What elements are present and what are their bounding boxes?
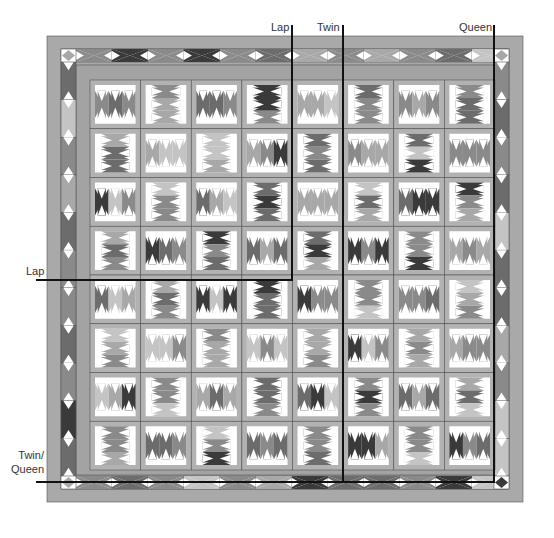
quilt-block bbox=[444, 275, 495, 324]
quilt-block bbox=[141, 178, 192, 227]
quilt-block bbox=[343, 275, 394, 324]
quilt-block bbox=[394, 129, 445, 178]
quilt-block bbox=[343, 421, 394, 470]
quilt-block bbox=[141, 421, 192, 470]
quilt-block bbox=[394, 178, 445, 227]
quilt-block bbox=[90, 178, 141, 227]
quilt-block bbox=[394, 275, 445, 324]
quilt-block bbox=[191, 129, 242, 178]
quilt-block bbox=[293, 324, 344, 373]
quilt-block bbox=[343, 80, 394, 129]
quilt-block bbox=[343, 373, 394, 422]
quilt-block bbox=[141, 226, 192, 275]
quilt-block bbox=[394, 80, 445, 129]
quilt-block bbox=[141, 324, 192, 373]
quilt-block bbox=[141, 275, 192, 324]
quilt-block bbox=[242, 80, 293, 129]
quilt-block bbox=[191, 178, 242, 227]
quilt-layout bbox=[0, 0, 554, 538]
quilt-block bbox=[444, 324, 495, 373]
quilt-block bbox=[293, 275, 344, 324]
quilt-block bbox=[242, 421, 293, 470]
quilt-block bbox=[444, 421, 495, 470]
quilt-block bbox=[343, 324, 394, 373]
quilt-block bbox=[394, 324, 445, 373]
label-lap-top: Lap bbox=[271, 21, 289, 33]
quilt-block bbox=[242, 129, 293, 178]
label-twin-top: Twin bbox=[317, 21, 340, 33]
quilt-block bbox=[242, 324, 293, 373]
quilt-block bbox=[90, 129, 141, 178]
quilt-block bbox=[242, 226, 293, 275]
label-twin-queen-left-2: Queen bbox=[8, 463, 44, 475]
quilt-block bbox=[191, 421, 242, 470]
quilt-block bbox=[242, 178, 293, 227]
quilt-block bbox=[444, 129, 495, 178]
quilt-block bbox=[293, 421, 344, 470]
quilt-block bbox=[343, 129, 394, 178]
quilt-block bbox=[394, 226, 445, 275]
quilt-block bbox=[191, 80, 242, 129]
quilt-block bbox=[293, 373, 344, 422]
quilt-block bbox=[191, 226, 242, 275]
quilt-block bbox=[90, 275, 141, 324]
quilt-block bbox=[191, 373, 242, 422]
quilt-block bbox=[343, 226, 394, 275]
label-twin-queen-left-1: Twin/ bbox=[14, 449, 44, 461]
quilt-block bbox=[141, 80, 192, 129]
quilt-block bbox=[444, 80, 495, 129]
cut-line-twin-vertical bbox=[342, 25, 344, 482]
cut-line-lap-vertical bbox=[291, 25, 293, 281]
quilt-block bbox=[242, 373, 293, 422]
cut-line-queen-vertical bbox=[493, 25, 495, 482]
quilt-block bbox=[444, 226, 495, 275]
quilt-block bbox=[141, 373, 192, 422]
quilt-block bbox=[90, 421, 141, 470]
quilt-block bbox=[293, 129, 344, 178]
quilt-block bbox=[444, 373, 495, 422]
quilt-block bbox=[293, 178, 344, 227]
quilt-block bbox=[191, 324, 242, 373]
quilt-block bbox=[394, 421, 445, 470]
cut-line-twin-queen-horizontal bbox=[36, 481, 495, 483]
quilt-block bbox=[293, 80, 344, 129]
quilt-block bbox=[242, 275, 293, 324]
quilt-block bbox=[90, 80, 141, 129]
quilt-block bbox=[90, 324, 141, 373]
quilt-block bbox=[394, 373, 445, 422]
label-queen-top: Queen bbox=[459, 21, 492, 33]
quilt-block bbox=[293, 226, 344, 275]
label-lap-left: Lap bbox=[26, 265, 44, 277]
cut-line-lap-horizontal bbox=[36, 279, 293, 281]
quilt-block bbox=[191, 275, 242, 324]
quilt-diagram: Lap Twin Queen Lap Twin/ Queen bbox=[0, 0, 554, 538]
quilt-block bbox=[90, 373, 141, 422]
quilt-block bbox=[444, 178, 495, 227]
quilt-block bbox=[90, 226, 141, 275]
quilt-block bbox=[343, 178, 394, 227]
quilt-block bbox=[141, 129, 192, 178]
